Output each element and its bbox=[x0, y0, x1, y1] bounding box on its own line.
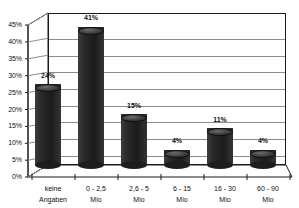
ytick-label-45: 45% bbox=[0, 21, 22, 28]
bar-body bbox=[35, 88, 61, 165]
bar-6-15-mio bbox=[164, 150, 190, 166]
bar-top-ellipse bbox=[250, 150, 276, 158]
bar-top-ellipse bbox=[164, 150, 190, 158]
bar-2-6-5-mio bbox=[121, 114, 147, 165]
value-label-keine-angaben: 24% bbox=[28, 72, 68, 79]
bar-16-30-mio bbox=[207, 128, 233, 165]
value-label-16-30-mio: 11% bbox=[200, 116, 240, 123]
bar-top-ellipse bbox=[207, 128, 233, 136]
ytick-label-5: 5% bbox=[0, 156, 22, 163]
xtick-line1: 0 - 2,5 bbox=[86, 185, 106, 192]
bar-body bbox=[78, 31, 104, 166]
value-label-60-90-mio: 4% bbox=[243, 137, 283, 144]
xtick-line1: 2,6 - 5 bbox=[129, 185, 149, 192]
bar-keine-angaben bbox=[35, 84, 61, 165]
value-label-6-15-mio: 4% bbox=[157, 137, 197, 144]
ytick-label-25: 25% bbox=[0, 89, 22, 96]
bar-top-ellipse bbox=[78, 27, 104, 35]
xtick-line1: 16 - 30 bbox=[214, 185, 236, 192]
ytick-label-30: 30% bbox=[0, 72, 22, 79]
xtick-line1: 60 - 90 bbox=[257, 185, 279, 192]
bar-base bbox=[164, 161, 190, 169]
bar-60-90-mio bbox=[250, 150, 276, 166]
xtick-line2: Mio bbox=[241, 194, 295, 205]
bar-base bbox=[121, 161, 147, 169]
bar-base bbox=[35, 161, 61, 169]
xtick-label-60-90-mio: 60 - 90 Mio bbox=[241, 183, 295, 205]
value-label-0-2-5-mio: 41% bbox=[71, 14, 111, 21]
ytick-label-15: 15% bbox=[0, 122, 22, 129]
ytick-label-20: 20% bbox=[0, 106, 22, 113]
bar-base bbox=[78, 161, 104, 169]
bar-body bbox=[121, 118, 147, 165]
value-label-2-6-5-mio: 15% bbox=[114, 102, 154, 109]
ytick-label-0: 0% bbox=[0, 173, 22, 180]
ytick-label-10: 10% bbox=[0, 139, 22, 146]
ytick-label-35: 35% bbox=[0, 55, 22, 62]
ytick-label-40: 40% bbox=[0, 38, 22, 45]
bar-chart: 45% 40% 35% 30% 25% 20% 15% 10% 5% 0% bbox=[0, 0, 299, 208]
bar-base bbox=[207, 161, 233, 169]
bar-base bbox=[250, 161, 276, 169]
xtick-line1: 6 - 15 bbox=[173, 185, 191, 192]
xtick-line1: keine bbox=[45, 185, 62, 192]
bar-top-ellipse bbox=[35, 84, 61, 92]
bar-0-2-5-mio bbox=[78, 27, 104, 166]
